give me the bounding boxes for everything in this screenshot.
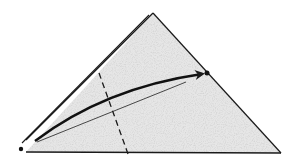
target-point-dot [205, 71, 210, 76]
origami-diagram [0, 0, 298, 162]
fold-diagram-canvas [0, 0, 298, 162]
start-point-dot [19, 147, 23, 151]
